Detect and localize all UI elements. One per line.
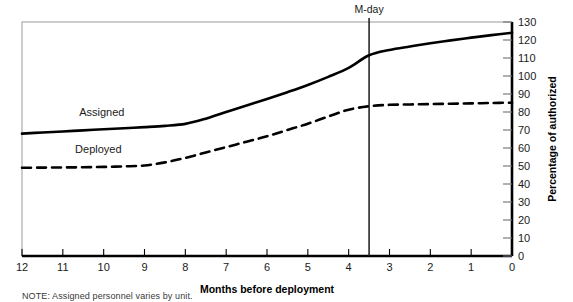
y-tick-label: 130 (518, 16, 536, 28)
y-tick-label: 0 (518, 250, 524, 262)
y-tick-label: 90 (518, 88, 530, 100)
x-tick-label: 10 (98, 261, 110, 273)
chart-figure: 1211109876543210 01020304050607080901001… (0, 0, 573, 302)
x-axis-tick-labels: 1211109876543210 (16, 261, 515, 273)
y-tick-label: 120 (518, 34, 536, 46)
x-tick-label: 0 (509, 261, 515, 273)
y-tick-label: 60 (518, 142, 530, 154)
series-label-assigned: Assigned (79, 106, 124, 118)
y-tick-label: 10 (518, 232, 530, 244)
x-tick-label: 4 (346, 261, 352, 273)
plot-frame (22, 22, 512, 256)
x-tick-label: 11 (57, 261, 68, 273)
y-tick-label: 100 (518, 70, 536, 82)
y-tick-label: 20 (518, 214, 530, 226)
series-line-assigned (22, 33, 512, 134)
series-label-deployed: Deployed (75, 143, 121, 155)
m-day-marker-label: M-day (354, 3, 384, 15)
x-tick-label: 3 (386, 261, 392, 273)
y-tick-label: 30 (518, 196, 530, 208)
y-tick-label: 70 (518, 124, 530, 136)
x-tick-label: 7 (223, 261, 229, 273)
y-tick-label: 40 (518, 178, 530, 190)
chart-note: NOTE: Assigned personnel varies by unit. (22, 291, 193, 301)
x-tick-label: 9 (141, 261, 147, 273)
x-tick-label: 5 (305, 261, 311, 273)
x-tick-label: 2 (427, 261, 433, 273)
x-tick-label: 8 (182, 261, 188, 273)
y-axis-title: Percentage of authorized (546, 76, 558, 201)
x-tick-label: 1 (468, 261, 474, 273)
x-tick-label: 12 (16, 261, 28, 273)
chart-canvas: 1211109876543210 01020304050607080901001… (0, 0, 573, 302)
y-tick-label: 50 (518, 160, 530, 172)
y-axis-tick-labels: 0102030405060708090100110120130 (518, 16, 536, 262)
y-axis-ticks (503, 22, 512, 256)
y-tick-label: 80 (518, 106, 530, 118)
chart-annotations: M-day (354, 3, 384, 256)
x-tick-label: 6 (264, 261, 270, 273)
x-axis-title: Months before deployment (200, 283, 335, 295)
y-tick-label: 110 (518, 52, 536, 64)
